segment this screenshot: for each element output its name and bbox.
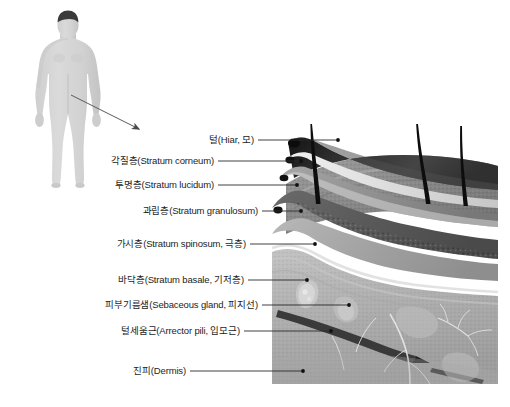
label-stratum-basale: 바닥층(Stratum basale, 기저층) — [118, 274, 244, 286]
label-arrector-pili: 털세움근(Arrector pili, 입모근) — [121, 325, 240, 337]
label-stratum-granulosum: 과립층(Stratum granulosum) — [143, 205, 258, 217]
label-hair: 털(Hiar, 모) — [209, 134, 254, 146]
leader-dot — [336, 138, 340, 142]
leader-dot — [347, 303, 351, 307]
label-sebaceous-gland: 피부기름샘(Sebaceous gland, 피지선) — [105, 299, 258, 311]
leader-dot — [301, 369, 305, 373]
leader-lines — [0, 0, 510, 407]
label-dermis: 진피(Dermis) — [133, 365, 186, 377]
leader-dot — [305, 278, 309, 282]
leader-dot — [299, 209, 303, 213]
leader-dot — [295, 183, 299, 187]
diagram-canvas: 털(Hiar, 모) 각질층(Stratum corneum) 투명층(Stra… — [0, 0, 510, 407]
leader-dot — [299, 159, 303, 163]
leader-dot — [329, 329, 333, 333]
leader-dot — [313, 242, 317, 246]
label-stratum-corneum: 각질층(Stratum corneum) — [111, 155, 214, 167]
label-stratum-lucidum: 투명층(Stratum lucidum) — [115, 179, 214, 191]
label-stratum-spinosum: 가시층(Stratum spinosum, 극층) — [117, 238, 246, 250]
